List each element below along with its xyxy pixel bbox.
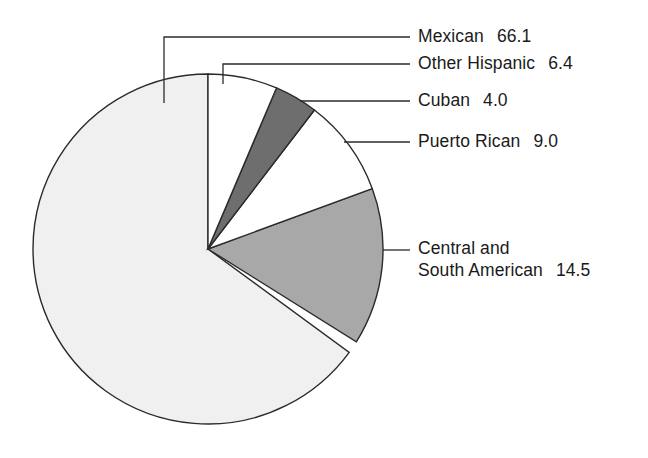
slice-label-central-south-american-value: 14.5: [556, 260, 590, 280]
slice-label-other-hispanic-name: Other Hispanic: [418, 53, 535, 73]
slice-label-other-hispanic[interactable]: Other Hispanic6.4: [418, 52, 573, 74]
slice-label-central-south-american-name-line1: Central and: [418, 238, 510, 258]
slice-label-mexican-name: Mexican: [418, 26, 484, 46]
slice-label-other-hispanic-value: 6.4: [548, 53, 573, 73]
slice-label-mexican[interactable]: Mexican66.1: [418, 25, 531, 47]
slice-label-cuban-name: Cuban: [418, 90, 470, 110]
slice-label-puerto-rican-name: Puerto Rican: [418, 131, 520, 151]
slice-label-puerto-rican[interactable]: Puerto Rican9.0: [418, 130, 558, 152]
slice-label-central-south-american[interactable]: Central and South American14.5: [418, 237, 590, 281]
slice-label-puerto-rican-value: 9.0: [533, 131, 558, 151]
slice-label-central-south-american-name-line2: South American: [418, 260, 543, 280]
slice-label-cuban-value: 4.0: [483, 90, 508, 110]
slice-label-mexican-value: 66.1: [497, 26, 531, 46]
pie-chart-figure: Mexican66.1 Other Hispanic6.4 Cuban4.0 P…: [0, 0, 648, 458]
slice-label-cuban[interactable]: Cuban4.0: [418, 89, 508, 111]
